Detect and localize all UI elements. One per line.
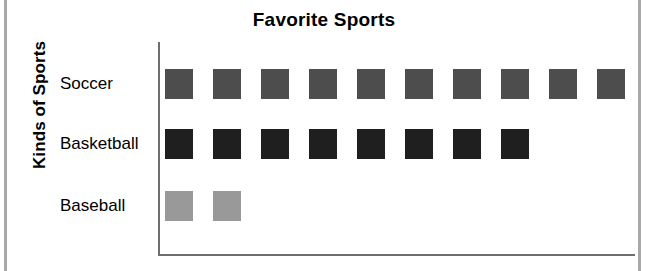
pictograph-cell-basketball bbox=[405, 129, 433, 159]
pictograph-cell-soccer bbox=[261, 69, 289, 99]
pictograph-cell-basketball bbox=[261, 129, 289, 159]
row-cells-basketball bbox=[165, 121, 529, 167]
y-axis-title: Kinds of Sports bbox=[30, 15, 50, 195]
pictograph-cell-basketball bbox=[357, 129, 385, 159]
pictograph-cell-basketball bbox=[309, 129, 337, 159]
chart-row-baseball: Baseball bbox=[60, 183, 640, 229]
pictograph-cell-soccer bbox=[597, 69, 625, 99]
chart-title: Favorite Sports bbox=[0, 9, 648, 31]
row-label-soccer: Soccer bbox=[60, 61, 158, 107]
pictograph-cell-basketball bbox=[453, 129, 481, 159]
pictograph-cell-soccer bbox=[453, 69, 481, 99]
pictograph-cell-soccer bbox=[501, 69, 529, 99]
chart-row-basketball: Basketball bbox=[60, 121, 640, 167]
pictograph-cell-basketball bbox=[501, 129, 529, 159]
row-cells-soccer bbox=[165, 61, 625, 107]
row-cells-baseball bbox=[165, 183, 241, 229]
row-label-basketball: Basketball bbox=[60, 121, 158, 167]
x-axis-line bbox=[158, 254, 635, 256]
pictograph-cell-basketball bbox=[165, 129, 193, 159]
pictograph-cell-soccer bbox=[309, 69, 337, 99]
pictograph-cell-soccer bbox=[213, 69, 241, 99]
pictograph-chart: Favorite Sports Kinds of Sports Soccer B… bbox=[0, 0, 648, 271]
chart-row-soccer: Soccer bbox=[60, 61, 640, 107]
row-label-baseball: Baseball bbox=[60, 183, 158, 229]
pictograph-cell-soccer bbox=[165, 69, 193, 99]
pictograph-cell-soccer bbox=[405, 69, 433, 99]
pictograph-cell-baseball bbox=[213, 191, 241, 221]
pictograph-cell-soccer bbox=[357, 69, 385, 99]
pictograph-cell-basketball bbox=[213, 129, 241, 159]
page-left-border bbox=[4, 0, 7, 271]
pictograph-cell-baseball bbox=[165, 191, 193, 221]
pictograph-cell-soccer bbox=[549, 69, 577, 99]
